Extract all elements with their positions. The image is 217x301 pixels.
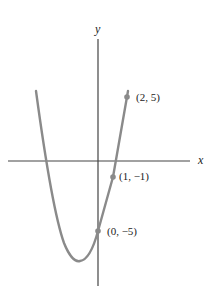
point-0-neg5	[95, 228, 101, 234]
label-point-1-neg1: (1, −1)	[119, 170, 149, 182]
point-1-neg1	[110, 174, 116, 180]
label-point-0-neg5: (0, −5)	[107, 225, 137, 237]
y-axis-label: y	[95, 22, 100, 37]
parabola-graph: y x (2, 5) (1, −1) (0, −5)	[0, 0, 217, 301]
point-2-5	[124, 94, 130, 100]
label-point-2-5: (2, 5)	[136, 91, 160, 103]
x-axis-label: x	[198, 153, 203, 168]
graph-canvas	[0, 0, 217, 301]
